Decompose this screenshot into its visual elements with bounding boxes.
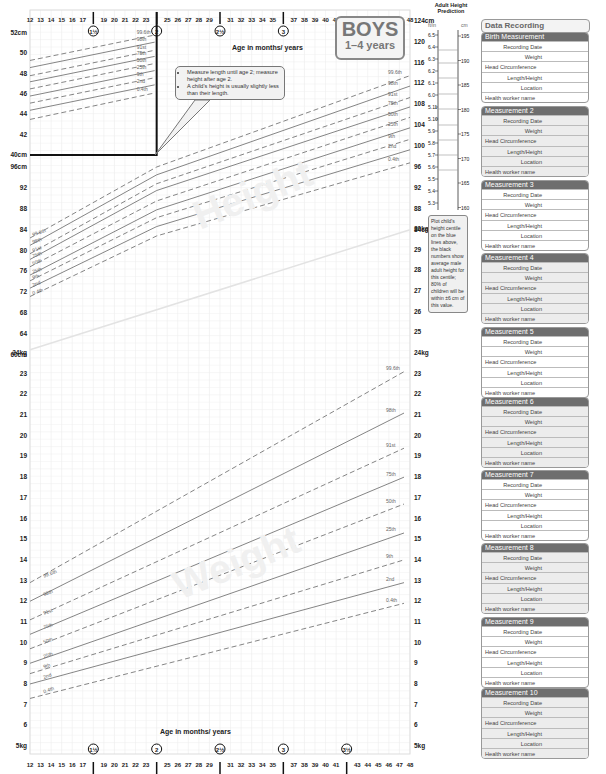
measurement-field-weight[interactable]: Weight <box>482 416 588 426</box>
measurement-block: Measurement 7Recording DateWeightHead Ci… <box>481 470 589 541</box>
measurement-field-length-height[interactable]: Length/Height <box>482 293 588 303</box>
measurement-field-location[interactable]: Location <box>482 667 588 677</box>
measurement-field-location[interactable]: Location <box>482 377 588 387</box>
y-tick-weight-right: 28 <box>414 266 422 273</box>
measurement-field-head-circumference[interactable]: Head Circumference <box>482 646 588 656</box>
y-tick-weight-left: 22 <box>20 390 28 397</box>
measurement-field-head-circumference[interactable]: Head Circumference <box>482 572 588 582</box>
measurement-field-location[interactable]: Location <box>482 230 588 240</box>
measurement-field-location[interactable]: Location <box>482 303 588 313</box>
callout-bullet: Measure length until age 2; measure heig… <box>187 69 281 82</box>
measurement-field-length-height[interactable]: Length/Height <box>482 583 588 593</box>
measurement-field-location[interactable]: Location <box>482 593 588 603</box>
measurement-field-location[interactable]: Location <box>482 520 588 530</box>
measurement-field-length-height[interactable]: Length/Height <box>482 657 588 667</box>
year-marker-label: 2½ <box>216 29 224 35</box>
centile-label: 99.6th <box>388 69 402 75</box>
measurement-field-health-worker-name[interactable]: Health worker name <box>482 166 588 176</box>
measurement-field-head-circumference[interactable]: Head Circumference <box>482 61 588 71</box>
x-tick: 29 <box>206 762 213 768</box>
x-tick: 48 <box>407 17 414 23</box>
centile-label: 9th <box>388 133 395 139</box>
centile-label: 2nd <box>386 576 395 582</box>
measurement-field-length-height[interactable]: Length/Height <box>482 510 588 520</box>
measurement-field-weight[interactable]: Weight <box>482 562 588 572</box>
measurement-field-recording-date[interactable]: Recording Date <box>482 626 588 636</box>
measurement-field-length-height[interactable]: Length/Height <box>482 220 588 230</box>
measurement-field-length-height[interactable]: Length/Height <box>482 728 588 738</box>
y-tick-head: 40cm <box>10 151 27 158</box>
measurement-field-head-circumference[interactable]: Head Circumference <box>482 717 588 727</box>
measurement-field-recording-date[interactable]: Recording Date <box>482 189 588 199</box>
measurement-field-recording-date[interactable]: Recording Date <box>482 406 588 416</box>
y-tick-weight-right: 7 <box>414 701 418 708</box>
x-tick: 29 <box>206 17 213 23</box>
measurement-field-weight[interactable]: Weight <box>482 346 588 356</box>
measurement-field-health-worker-name[interactable]: Health worker name <box>482 677 588 687</box>
cm-label: 180 <box>461 107 470 113</box>
measurement-field-health-worker-name[interactable]: Health worker name <box>482 530 588 540</box>
measurement-field-health-worker-name[interactable]: Health worker name <box>482 92 588 102</box>
measurement-field-health-worker-name[interactable]: Health worker name <box>482 603 588 613</box>
measurement-field-health-worker-name[interactable]: Health worker name <box>482 387 588 397</box>
year-marker-label: 1½ <box>89 747 97 753</box>
measurement-field-health-worker-name[interactable]: Health worker name <box>482 240 588 250</box>
measurement-field-recording-date[interactable]: Recording Date <box>482 41 588 51</box>
x-tick: 23 <box>143 17 150 23</box>
measurement-field-weight[interactable]: Weight <box>482 707 588 717</box>
measurement-field-location[interactable]: Location <box>482 447 588 457</box>
measurement-field-recording-date[interactable]: Recording Date <box>482 115 588 125</box>
measurement-field-recording-date[interactable]: Recording Date <box>482 552 588 562</box>
measurement-field-weight[interactable]: Weight <box>482 125 588 135</box>
measurement-field-location[interactable]: Location <box>482 82 588 92</box>
centile-label: 75th <box>137 50 147 56</box>
y-tick-height-left: 84 <box>20 226 28 233</box>
centile-label: 91st <box>137 44 147 50</box>
x-tick: 40 <box>322 17 329 23</box>
y-tick-weight-right: 12 <box>414 597 422 604</box>
measurement-field-health-worker-name[interactable]: Health worker name <box>482 313 588 323</box>
measurement-field-head-circumference[interactable]: Head Circumference <box>482 426 588 436</box>
measurement-field-head-circumference[interactable]: Head Circumference <box>482 282 588 292</box>
y-tick-weight-right: 25 <box>414 328 422 335</box>
measurement-block: Measurement 6Recording DateWeightHead Ci… <box>481 397 589 468</box>
measurement-field-recording-date[interactable]: Recording Date <box>482 262 588 272</box>
centile-label: 25th <box>42 650 53 659</box>
measurement-field-location[interactable]: Location <box>482 156 588 166</box>
measurement-field-weight[interactable]: Weight <box>482 272 588 282</box>
x-tick: 15 <box>58 17 65 23</box>
measurement-field-weight[interactable]: Weight <box>482 489 588 499</box>
measurement-field-health-worker-name[interactable]: Health worker name <box>482 457 588 467</box>
centile-label: 50th <box>42 636 53 645</box>
measurement-field-weight[interactable]: Weight <box>482 51 588 61</box>
measurement-field-health-worker-name[interactable]: Health worker name <box>482 748 588 758</box>
measurement-field-length-height[interactable]: Length/Height <box>482 367 588 377</box>
measurement-field-length-height[interactable]: Length/Height <box>482 437 588 447</box>
measurement-field-head-circumference[interactable]: Head Circumference <box>482 499 588 509</box>
measurement-field-length-height[interactable]: Length/Height <box>482 146 588 156</box>
measurement-field-recording-date[interactable]: Recording Date <box>482 336 588 346</box>
ft-label: 5.5 <box>428 176 435 182</box>
centile-label: 9th <box>386 553 393 559</box>
centile-label: 0.4th <box>42 685 55 695</box>
age-axis-label-top: Age in months/ years <box>232 44 303 51</box>
x-tick: 35 <box>269 762 276 768</box>
y-tick-height-right: 116 <box>414 59 425 66</box>
measurement-field-recording-date[interactable]: Recording Date <box>482 479 588 489</box>
measurement-field-head-circumference[interactable]: Head Circumference <box>482 135 588 145</box>
x-tick: 23 <box>143 762 150 768</box>
measurement-field-head-circumference[interactable]: Head Circumference <box>482 356 588 366</box>
measurement-field-length-height[interactable]: Length/Height <box>482 72 588 82</box>
centile-label: 75th <box>42 621 53 630</box>
centile-label: 99.6th <box>137 29 151 35</box>
measurement-field-head-circumference[interactable]: Head Circumference <box>482 209 588 219</box>
y-tick-weight-right: 6 <box>414 721 418 728</box>
ft-unit: ft/in <box>428 22 436 28</box>
x-tick: 12 <box>27 17 34 23</box>
x-tick: 32 <box>238 762 245 768</box>
measurement-field-location[interactable]: Location <box>482 738 588 748</box>
centile-label: 98th <box>386 407 396 413</box>
measurement-field-weight[interactable]: Weight <box>482 199 588 209</box>
measurement-field-recording-date[interactable]: Recording Date <box>482 697 588 707</box>
measurement-field-weight[interactable]: Weight <box>482 636 588 646</box>
